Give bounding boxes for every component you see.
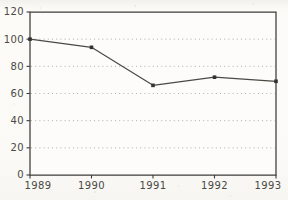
y-axis-label-80: 80 [10, 61, 24, 72]
y-axis-label-60: 60 [10, 88, 24, 99]
y-axis-label-40: 40 [10, 115, 24, 126]
y-axis-label-100: 100 [4, 34, 24, 45]
y-axis-label-0: 0 [17, 169, 24, 180]
x-axis-label-1990: 1990 [78, 180, 105, 191]
y-axis-label-120: 120 [4, 6, 24, 17]
x-axis-label-1989: 1989 [24, 180, 51, 191]
y-axis-labels: 020406080100120 [4, 6, 24, 180]
line-chart-figure: 020406080100120 19891990199119921993 [0, 0, 288, 200]
data-point-1993 [274, 79, 278, 83]
x-axis-label-1991: 1991 [139, 180, 166, 191]
data-point-1990 [90, 46, 94, 50]
x-axis-label-1993: 1993 [254, 180, 281, 191]
chart-canvas: 020406080100120 19891990199119921993 [0, 0, 288, 200]
x-axis-label-1992: 1992 [201, 180, 228, 191]
x-axis-labels: 19891990199119921993 [24, 180, 281, 191]
data-point-1989 [28, 37, 32, 41]
y-axis-label-20: 20 [10, 142, 24, 153]
data-point-1991 [151, 84, 155, 88]
data-point-1992 [213, 75, 217, 79]
